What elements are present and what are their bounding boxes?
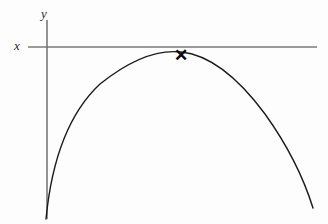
x-axis-label: x	[13, 38, 20, 53]
figure-canvas: x y ✕	[0, 0, 328, 224]
math-figure: x y ✕	[0, 0, 328, 224]
y-axis-label: y	[39, 6, 47, 21]
vertex-cross-marker: ✕	[174, 46, 188, 65]
